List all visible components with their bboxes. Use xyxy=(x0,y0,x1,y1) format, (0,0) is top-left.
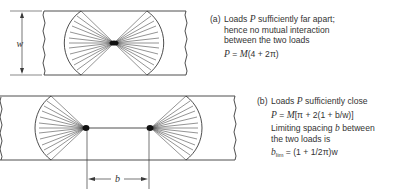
fan-b-left xyxy=(35,96,85,160)
text: sufficiently far apart; xyxy=(256,14,335,24)
caption-a-line2: hence no mutual interaction xyxy=(210,25,393,36)
text: (4 + 2π) xyxy=(248,49,279,59)
limit-text-line1: Limiting spacing b between xyxy=(257,123,393,134)
spacing-label: b xyxy=(115,173,120,184)
caption-b-line1: (b)Loads P sufficiently close xyxy=(257,96,393,107)
caption-b-tag: (b) xyxy=(257,96,271,107)
var-m: M xyxy=(240,48,248,59)
caption-a-line3: between the two loads xyxy=(210,35,393,46)
text: = xyxy=(277,110,287,120)
text: Loads xyxy=(224,14,250,24)
caption-a: (a)Loads P sufficiently far apart; hence… xyxy=(210,14,393,59)
caption-a-tag: (a) xyxy=(210,14,224,25)
fan-a-left xyxy=(64,11,114,75)
load-point-a xyxy=(110,40,119,45)
width-label: w xyxy=(17,38,24,49)
width-dimension xyxy=(10,11,42,75)
text: Loads xyxy=(271,96,297,106)
text: = (1 + 1/2π)w xyxy=(283,147,337,157)
text: Limiting spacing xyxy=(271,123,335,133)
text: sufficiently close xyxy=(303,96,368,106)
text: [π + 2(1 + b/w)] xyxy=(295,110,354,120)
caption-b: (b)Loads P sufficiently close P = M[π + … xyxy=(257,96,393,161)
fan-b-right xyxy=(151,96,202,160)
fan-a-right xyxy=(114,11,164,75)
load-point-b-left xyxy=(83,125,90,131)
limit-text-line2: the two loads is xyxy=(257,134,393,145)
load-point-b-right xyxy=(147,125,154,131)
formula-blim: blim = (1 + 1/2π)w xyxy=(257,147,393,161)
caption-a-line1: (a)Loads P sufficiently far apart; xyxy=(210,14,393,25)
formula-b: P = M[π + 2(1 + b/w)] xyxy=(257,110,393,121)
text: = xyxy=(230,49,240,59)
formula-a: P = M(4 + 2π) xyxy=(210,49,393,60)
text: between xyxy=(340,123,375,133)
var-m: M xyxy=(287,109,295,120)
